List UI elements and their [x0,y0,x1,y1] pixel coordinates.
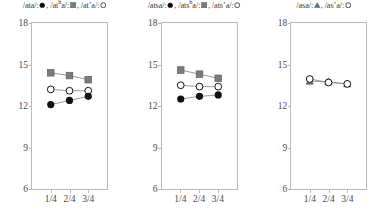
y-axis-tick-label: 18 [278,18,288,28]
chart-panel-1: /ata/:, /atha/:, /at’a/: 181512961/42/43… [0,0,130,219]
data-point-marker [325,79,332,86]
data-point-marker [307,76,314,83]
y-axis-tick [29,189,33,190]
series-layer [291,23,366,189]
data-point-marker [66,97,73,104]
y-axis-tick-label: 12 [278,101,288,111]
x-axis-tick [329,189,330,193]
y-axis-tick-label: 9 [153,143,158,153]
legend-marker-open-circle-icon [234,1,241,11]
x-axis-tick-label: 1/4 [174,194,186,204]
x-axis-tick [88,189,89,193]
data-point-marker [47,101,54,108]
data-point-marker [177,67,184,74]
legend-entry-1-1: /ata/:, [23,1,48,10]
legend-label-1-2: /atha/ [50,1,67,10]
legend-entry-2-2: /atsha/:, [178,1,210,10]
x-axis-tick [199,189,200,193]
y-axis-tick-label: 6 [282,184,287,194]
x-axis-tick-label: 2/4 [193,194,205,204]
data-point-marker [195,93,202,100]
x-axis-tick [218,189,219,193]
x-axis-tick [347,189,348,193]
y-axis-tick-label: 15 [19,60,29,70]
x-axis-tick-label: 3/4 [341,194,353,204]
legend-marker-filled-triangle-icon [314,1,321,11]
legend-marker-filled-square-icon [201,1,208,11]
legend-entry-2-3: /ats’a/: [212,1,241,10]
legend-panel-3: /asa/:, /as’a/: [259,1,389,11]
plot-area-3: 181512961/42/43/4 [290,22,367,190]
y-axis-tick [288,189,292,190]
data-point-marker [196,83,203,90]
y-axis-tick-label: 15 [278,60,288,70]
legend-entry-3-1: /asa/:, [296,1,322,10]
chart-panel-3: /asa/:, /as’a/: 181512961/42/43/4 [259,0,389,219]
legend-label-3-2: /as’a/ [325,1,342,10]
legend-label-1-3: /at’a/ [81,1,97,10]
x-axis-tick-label: 2/4 [63,194,75,204]
y-axis-tick [158,189,162,190]
x-axis-tick-label: 3/4 [82,194,94,204]
series-layer [32,23,107,189]
legend-label-2-2: /atsha/ [178,1,198,10]
legend-entry-2-1: /atsa/:, [148,1,177,10]
y-axis-tick-label: 18 [148,18,158,28]
y-axis-tick-label: 18 [19,18,29,28]
y-axis-tick-label: 6 [153,184,158,194]
data-point-marker [85,93,92,100]
legend-marker-filled-square-icon [70,1,77,11]
plot-area-1: 181512961/42/43/4 [31,22,108,190]
y-axis-tick-label: 9 [23,143,28,153]
legend-label-2-3: /ats’a/ [212,1,232,10]
y-axis-tick-label: 12 [19,101,29,111]
data-point-marker [214,91,221,98]
y-axis-tick-label: 12 [148,101,158,111]
data-point-marker [214,83,221,90]
x-axis-tick-label: 1/4 [304,194,316,204]
legend-marker-open-circle-icon [345,1,352,11]
legend-entry-3-2: /as’a/: [325,1,352,10]
legend-label-1-1: /ata/ [23,1,37,10]
legend-panel-2: /atsa/:, /atsha/:, /ats’a/: [130,1,260,11]
x-axis-tick [310,189,311,193]
data-point-marker [344,80,351,87]
data-point-marker [47,70,54,77]
chart-panel-2: /atsa/:, /atsha/:, /ats’a/: 181512961/42… [130,0,260,219]
y-axis-tick-label: 15 [148,60,158,70]
x-axis-tick [180,189,181,193]
data-point-marker [177,95,184,102]
legend-entry-1-2: /atha/:, [50,1,79,10]
y-axis-tick-label: 6 [23,184,28,194]
data-point-marker [85,76,92,83]
three-panel-line-chart-figure: /ata/:, /atha/:, /at’a/: 181512961/42/43… [0,0,389,219]
legend-marker-filled-circle-icon [167,1,174,11]
data-point-marker [177,82,184,89]
data-point-marker [66,87,73,94]
data-point-marker [47,86,54,93]
x-axis-tick [51,189,52,193]
y-axis-tick-label: 9 [282,143,287,153]
x-axis-tick-label: 1/4 [45,194,57,204]
plot-area-2: 181512961/42/43/4 [161,22,238,190]
legend-marker-open-circle-icon [100,1,107,11]
legend-entry-1-3: /at’a/: [81,1,107,10]
data-point-marker [215,75,222,82]
series-layer [162,23,237,189]
x-axis-tick-label: 2/4 [323,194,335,204]
data-point-marker [66,72,73,79]
data-point-marker [196,71,203,78]
x-axis-tick-label: 3/4 [212,194,224,204]
legend-marker-filled-circle-icon [39,1,46,11]
legend-label-3-1: /asa/ [296,1,311,10]
legend-label-2-1: /atsa/ [148,1,165,10]
x-axis-tick [70,189,71,193]
legend-panel-1: /ata/:, /atha/:, /at’a/: [0,1,130,11]
